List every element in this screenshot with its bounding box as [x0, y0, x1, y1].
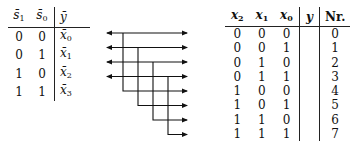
cell-y [299, 113, 320, 127]
cell-nr: 0 [320, 27, 350, 42]
header-y: y [299, 7, 320, 27]
header-x2: x2 [225, 7, 250, 27]
cell-x2: 0 [225, 70, 250, 84]
table-row: 1 0 1 5 [225, 98, 350, 112]
cell-y [299, 56, 320, 70]
table-row: 1 0 0 4 [225, 84, 350, 98]
header-x0: x0 [274, 7, 299, 27]
table-row: 1 1 0 6 [225, 113, 350, 127]
cell-x2: 1 [225, 84, 250, 98]
cell-nr: 4 [320, 84, 350, 98]
cell-x0: 1 [274, 41, 299, 55]
table-row: 0 1 0 2 [225, 56, 350, 70]
cell-x0: 0 [274, 84, 299, 98]
cell-x1: 1 [250, 70, 275, 84]
cell-x1: 0 [250, 41, 275, 55]
cell-x2: 0 [225, 56, 250, 70]
cell-x0: 0 [274, 27, 299, 42]
header-nr: Nr. [320, 7, 350, 27]
cell-x0: 1 [274, 127, 299, 141]
cell-y [299, 27, 320, 42]
right-header-row: x2 x1 x0 y Nr. [225, 7, 350, 27]
header-x1: x1 [250, 7, 275, 27]
cell-x1: 0 [250, 27, 275, 42]
cell-nr: 2 [320, 56, 350, 70]
table-row: 0 0 1 1 [225, 41, 350, 55]
cell-x2: 1 [225, 98, 250, 112]
cell-y [299, 98, 320, 112]
cell-x1: 1 [250, 127, 275, 141]
cell-nr: 7 [320, 127, 350, 141]
cell-y [299, 127, 320, 141]
cell-nr: 5 [320, 98, 350, 112]
cell-nr: 1 [320, 41, 350, 55]
cell-x0: 1 [274, 70, 299, 84]
right-truth-table: x2 x1 x0 y Nr. 0 0 0 0 0 0 1 1 0 1 0 2 0… [225, 7, 350, 141]
cell-x1: 1 [250, 56, 275, 70]
cell-x1: 0 [250, 84, 275, 98]
cell-y [299, 70, 320, 84]
table-row: 0 1 1 3 [225, 70, 350, 84]
cell-x0: 0 [274, 56, 299, 70]
cell-x2: 0 [225, 27, 250, 42]
cell-x2: 0 [225, 41, 250, 55]
cell-y [299, 84, 320, 98]
cell-nr: 3 [320, 70, 350, 84]
table-row: 1 1 1 7 [225, 127, 350, 141]
cell-y [299, 41, 320, 55]
table-row: 0 0 0 0 [225, 27, 350, 42]
cell-x0: 1 [274, 98, 299, 112]
cell-x2: 1 [225, 127, 250, 141]
cell-nr: 6 [320, 113, 350, 127]
cell-x2: 1 [225, 113, 250, 127]
cell-x1: 1 [250, 113, 275, 127]
cell-x1: 0 [250, 98, 275, 112]
cell-x0: 0 [274, 113, 299, 127]
